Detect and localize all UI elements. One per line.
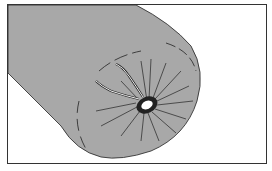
illustration-frame [7,4,267,164]
bolster-illustration [8,5,267,164]
